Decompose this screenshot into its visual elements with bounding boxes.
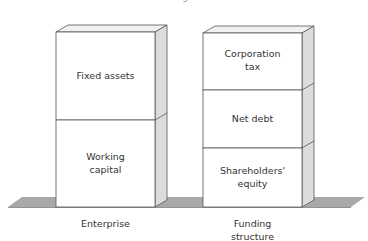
funding-top-face (203, 26, 314, 33)
funding-side-face (302, 26, 314, 207)
enterprise-block (56, 25, 167, 207)
enterprise-side-face (155, 25, 167, 207)
caption-funding-structure: Funding structure (203, 218, 302, 241)
label-corporation-tax: Corporation tax (203, 48, 302, 73)
caption-enterprise: Enterprise (56, 218, 155, 231)
enterprise-top-face (56, 25, 167, 32)
label-shareholders-equity: Shareholders' equity (203, 165, 302, 190)
label-fixed-assets: Fixed assets (56, 70, 155, 83)
label-working-capital: Working capital (56, 151, 155, 176)
diagram-canvas (0, 0, 368, 241)
label-net-debt: Net debt (203, 113, 302, 126)
title-fragment: g (170, 0, 200, 4)
